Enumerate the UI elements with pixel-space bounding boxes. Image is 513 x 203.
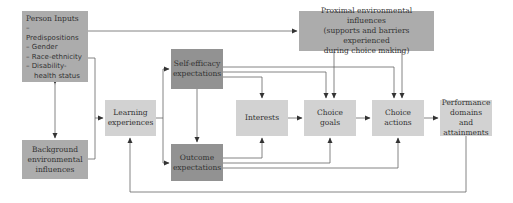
list-item: health status <box>26 72 84 82</box>
node-label: actions <box>384 118 411 128</box>
node-label: Background <box>32 145 78 155</box>
person-inputs-title: Person Inputs <box>26 14 79 24</box>
node-learning-experiences: Learning experiences <box>105 100 156 136</box>
career-model-diagram: Person Inputs – Predispositions – Gender… <box>0 0 513 203</box>
node-label: influences <box>36 165 75 175</box>
node-label: Performance <box>442 98 491 108</box>
node-background-influences: Background environmental influences <box>22 140 88 179</box>
node-proximal-influences: Proximal environmental influences (suppo… <box>299 11 434 51</box>
node-label: (supports and barriers experienced <box>301 26 432 46</box>
node-choice-actions: Choice actions <box>372 100 424 136</box>
node-label: Choice goals <box>306 108 354 128</box>
node-label: Outcome <box>180 153 214 163</box>
node-label: Learning <box>113 108 147 118</box>
list-item: – Gender <box>26 43 84 53</box>
node-label: expectations <box>173 69 221 79</box>
node-label: attainments <box>443 128 488 138</box>
node-person-inputs: Person Inputs – Predispositions – Gender… <box>22 11 88 82</box>
node-performance: Performance domains and attainments <box>440 100 492 136</box>
node-interests: Interests <box>236 100 288 136</box>
person-inputs-list: – Predispositions – Gender – Race-ethnic… <box>26 24 84 81</box>
node-outcome-expectations: Outcome expectations <box>171 144 223 181</box>
node-label: during choice making) <box>324 46 410 56</box>
list-item: – Race-ethnicity <box>26 53 84 63</box>
node-label: Self-efficacy <box>174 59 220 69</box>
node-self-efficacy: Self-efficacy expectations <box>171 49 223 89</box>
node-label: expectations <box>173 163 221 173</box>
node-label: Choice <box>385 108 411 118</box>
node-choice-goals: Choice goals <box>304 100 356 136</box>
list-item: – Predispositions <box>26 24 84 43</box>
node-label: Proximal environmental influences <box>301 6 432 26</box>
node-label: Interests <box>245 113 279 123</box>
node-label: experiences <box>108 118 154 128</box>
node-label: domains and <box>442 108 490 128</box>
list-item: – Disability- <box>26 62 84 72</box>
node-label: environmental <box>27 155 82 165</box>
